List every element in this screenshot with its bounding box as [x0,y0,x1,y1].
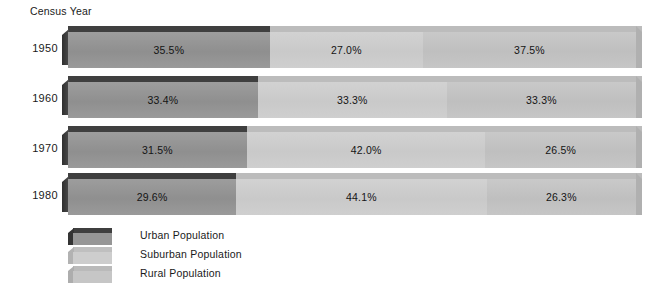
bar-front-face: 33.4%33.3%33.3% [68,82,636,118]
legend-swatch [68,228,112,245]
bar-segment-value-label: 37.5% [514,44,545,56]
legend-swatch-front-face [73,271,112,283]
bar-segment-value-label: 33.3% [526,94,557,106]
bar-3d-body: 35.5%27.0%37.5% [68,26,636,62]
bar-segment-value-label: 33.3% [337,94,368,106]
bar-segment[interactable]: 27.0% [270,32,423,68]
bar-segment[interactable]: 35.5% [68,32,270,68]
bar-segment[interactable]: 26.5% [485,132,636,168]
legend-swatch-front-face [73,252,112,264]
bar-segment[interactable]: 29.6% [68,179,236,215]
bar-right-end-cap [636,126,642,168]
legend-item-label: Urban Population [140,229,224,241]
chart-title: Census Year [30,5,92,17]
bar-segment-value-label: 42.0% [351,144,382,156]
bar-front-face: 29.6%44.1%26.3% [68,179,636,215]
bar-right-end-cap [636,26,642,68]
bar-segment[interactable]: 33.3% [258,82,447,118]
bar-segment-value-label: 26.3% [546,191,577,203]
legend-item-label: Suburban Population [140,248,242,260]
bar-segment[interactable]: 33.3% [447,82,636,118]
bar-segment-value-label: 33.4% [147,94,178,106]
legend-swatch-front-face [73,233,112,245]
bar-segment-value-label: 31.5% [142,144,173,156]
bar-segment-value-label: 44.1% [346,191,377,203]
bar-right-end-cap [636,173,642,215]
year-axis-label: 1980 [22,189,68,201]
bar-segment[interactable]: 42.0% [247,132,486,168]
bar-segment-value-label: 29.6% [137,191,168,203]
legend-swatch [68,266,112,283]
bar-3d-body: 31.5%42.0%26.5% [68,126,636,162]
bar-segment[interactable]: 26.3% [487,179,636,215]
legend-item-label: Rural Population [140,267,221,279]
bar-segment[interactable]: 31.5% [68,132,247,168]
bar-segment[interactable]: 44.1% [236,179,486,215]
bar-front-face: 31.5%42.0%26.5% [68,132,636,168]
bar-3d-body: 33.4%33.3%33.3% [68,76,636,112]
bar-segment-value-label: 35.5% [153,44,184,56]
bar-segment-value-label: 26.5% [545,144,576,156]
bar-segment[interactable]: 33.4% [68,82,258,118]
year-axis-label: 1950 [22,42,68,54]
bar-3d-body: 29.6%44.1%26.3% [68,173,636,209]
legend-swatch [68,247,112,264]
bar-front-face: 35.5%27.0%37.5% [68,32,636,68]
stacked-bar-chart: Census Year 195035.5%27.0%37.5%196033.4%… [0,0,663,286]
bar-segment-value-label: 27.0% [331,44,362,56]
bar-right-end-cap [636,76,642,118]
year-axis-label: 1960 [22,92,68,104]
year-axis-label: 1970 [22,142,68,154]
bar-segment[interactable]: 37.5% [423,32,636,68]
